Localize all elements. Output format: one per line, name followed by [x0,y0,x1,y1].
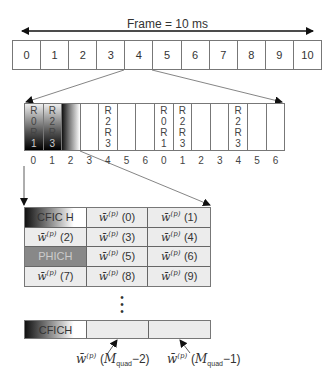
w-symbol-cell: w̄(p) (4) [148,228,210,248]
ellipsis-vertical: ••• [119,294,125,315]
last-reg-row: CFICH [24,320,211,339]
symbol-index: 1 [173,155,192,166]
cfich-cell: CFIC H [25,208,87,228]
reference-signal-label: 0 [31,116,37,127]
w-symbol-cell: w̄(p) (0) [87,208,149,228]
reference-signal-label: R [235,105,242,116]
reference-signal-label: R [30,105,37,116]
cfich-cell: CFICH [25,321,87,338]
resource-element-grid: CFIC Hw̄(p) (0)w̄(p) (1)w̄(p) (2)w̄(p) (… [24,207,211,287]
reference-signal-label: 3 [105,138,111,149]
reference-signal-label: R [104,127,111,138]
w-quad-minus-1-cell [149,321,210,338]
w-symbol-cell: w̄(p) (7) [25,267,87,287]
reference-signal-label: 2 [180,116,186,127]
reference-signal-label: 3 [180,138,186,149]
subframe-cell: 0 [13,41,41,69]
w-symbol-cell: w̄(p) (6) [148,247,210,267]
reference-signal-label: R [160,127,167,138]
w-symbol-cell: w̄(p) (8) [87,267,149,287]
w-symbol-cell: w̄(p) (5) [87,247,149,267]
ofdm-symbol-cell: R2R3 [229,104,248,150]
symbol-index: 2 [192,155,211,166]
reference-signal-label: 3 [50,138,56,149]
symbol-index: 2 [61,155,80,166]
subframe-cell: 3 [97,41,125,69]
ofdm-symbol-cell [192,104,211,150]
reference-signal-label: R [179,105,186,116]
subframe-cell: 10 [294,41,321,69]
subframe-cell: 4 [125,41,153,69]
ofdm-symbol-cell: R0R1 [155,104,174,150]
ofdm-symbol-cell [62,104,81,150]
ofdm-symbol-cell [81,104,100,150]
reference-signal-label: R [160,105,167,116]
reference-signal-label: 2 [105,116,111,127]
w-symbol-cell: w̄(p) (2) [25,228,87,248]
symbol-index: 6 [266,155,285,166]
symbol-index: 1 [43,155,62,166]
ofdm-symbol-cell: R2R3 [99,104,118,150]
frame-duration-label: Frame = 10 ms [0,17,335,31]
w-symbol-cell: w̄(p) (9) [148,267,210,287]
reference-signal-label: R [30,127,37,138]
symbol-index: 4 [229,155,248,166]
ofdm-symbol-cell [136,104,155,150]
subframe-detail: R0R1R2R3R2R3R0R1R2R3R2R3 [24,103,285,151]
reference-signal-label: R [49,105,56,116]
reference-signal-label: 2 [235,116,241,127]
symbol-index: 0 [154,155,173,166]
reference-signal-label: 1 [31,138,37,149]
ofdm-symbol-cell [118,104,137,150]
w-symbol-cell: w̄(p) (3) [87,228,149,248]
symbol-index: 3 [210,155,229,166]
reference-signal-label: 3 [235,138,241,149]
ofdm-symbol-cell: R0R1 [25,104,44,150]
symbol-index: 6 [136,155,155,166]
subframe-cell: 9 [266,41,294,69]
reference-signal-label: 0 [161,116,167,127]
radio-frame: 012345678910 [12,40,322,70]
symbol-index: 4 [99,155,118,166]
subframe-cell: 5 [153,41,181,69]
reference-signal-label: 2 [50,116,56,127]
ofdm-symbol-cell: R2R3 [174,104,193,150]
subframe-cell: 6 [182,41,210,69]
symbol-index: 5 [248,155,267,166]
w-symbol-cell: w̄(p) (1) [148,208,210,228]
reference-signal-label: R [179,127,186,138]
subframe-cell: 1 [41,41,69,69]
reference-signal-label: 1 [161,138,167,149]
ofdm-symbol-indices: 01234560123456 [24,155,285,166]
label-w-mquad-minus-2: w̄(p) (Mquad−2) [76,352,150,367]
reference-signal-label: R [104,105,111,116]
w-quad-minus-2-cell [87,321,149,338]
reference-signal-label: R [235,127,242,138]
ofdm-symbol-cell [267,104,285,150]
subframe-cell: 7 [210,41,238,69]
phich-cell: PHICH [25,247,87,267]
symbol-index: 3 [80,155,99,166]
ofdm-symbol-cell: R2R3 [44,104,63,150]
symbol-index: 5 [117,155,136,166]
subframe-cell: 2 [69,41,97,69]
symbol-index: 0 [24,155,43,166]
subframe-cell: 8 [238,41,266,69]
ofdm-symbol-cell [211,104,230,150]
reference-signal-label: R [49,127,56,138]
label-w-mquad-minus-1: w̄(p) (Mquad−1) [167,352,241,367]
ofdm-symbol-cell [248,104,267,150]
